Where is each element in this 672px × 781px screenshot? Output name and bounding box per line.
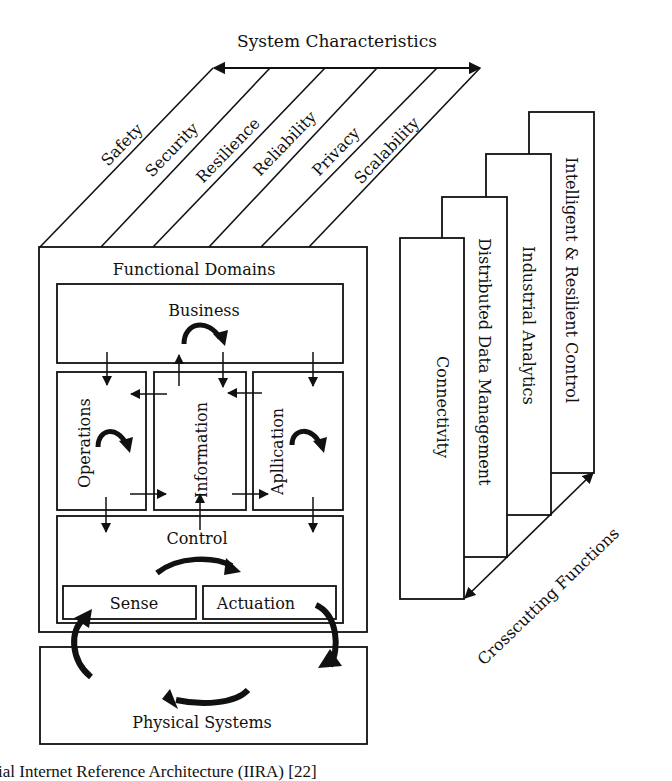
intelligent-resilient-control-label: Intelligent & Resilient Control (562, 157, 581, 403)
application-label: Apllication (268, 408, 287, 496)
control-cycle-arrowhead-icon (224, 558, 241, 575)
crosscutting-panels: Intelligent & Resilient Control Industri… (400, 112, 594, 599)
physical-cycle-arrowhead-icon (162, 689, 178, 709)
physical-systems-label: Physical Systems (132, 713, 272, 732)
control-label: Control (166, 529, 227, 548)
iira-diagram: System Characteristics Safety Security R… (0, 0, 672, 781)
application-box (253, 372, 343, 510)
industrial-analytics-label: Industrial Analytics (519, 246, 538, 405)
system-characteristics-label: System Characteristics (237, 31, 437, 51)
operations-label: Operations (75, 398, 94, 488)
characteristic-resilience: Resilience (192, 114, 264, 187)
operations-box (57, 372, 146, 510)
diagram-canvas: System Characteristics Safety Security R… (0, 0, 672, 781)
functional-domains-label: Functional Domains (113, 260, 276, 279)
characteristic-scalability: Scalability (350, 113, 423, 187)
panel-connectivity (400, 238, 464, 599)
characteristics-labels: Safety Security Resilience Reliability P… (97, 107, 423, 187)
business-label: Business (168, 301, 240, 320)
connectivity-label: Connectivity (433, 356, 452, 458)
actuation-label: Actuation (216, 594, 295, 613)
actuation-loop-arrowhead-icon (318, 649, 342, 668)
figure-caption: ial Internet Reference Architecture (IIR… (0, 762, 317, 781)
operations-cycle-icon (98, 432, 126, 447)
control-cycle-icon (157, 559, 232, 573)
information-label: Information (192, 402, 211, 498)
sense-loop-icon (74, 620, 91, 677)
sense-label: Sense (110, 594, 158, 613)
physical-cycle-icon (176, 690, 248, 703)
distributed-data-management-label: Distributed Data Management (475, 238, 494, 486)
